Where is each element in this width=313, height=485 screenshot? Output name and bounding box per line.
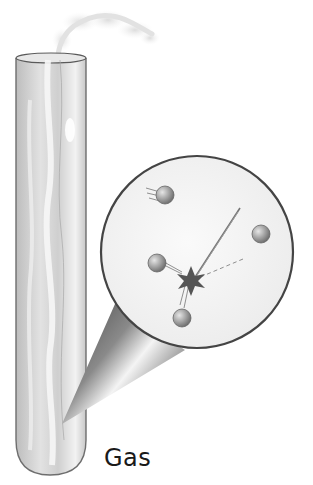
- state-label: Gas: [104, 444, 151, 472]
- molecule-icon: [173, 309, 191, 327]
- molecule-icon: [148, 254, 166, 272]
- gas-illustration: [0, 0, 313, 485]
- magnified-view: [101, 156, 293, 348]
- escaping-gas: [52, 10, 160, 55]
- molecule-icon: [156, 186, 174, 204]
- molecule-icon: [252, 225, 270, 243]
